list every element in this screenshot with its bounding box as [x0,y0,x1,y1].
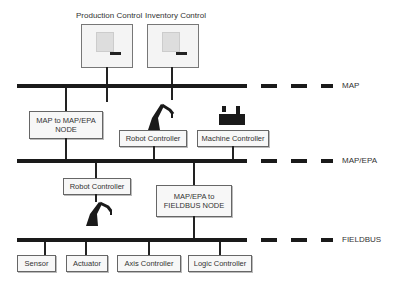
robot-controller-map: Robot Controller [119,130,187,147]
robot-controller-map-epa: Robot Controller [63,178,131,195]
gateway-line2: FIELDBUS NODE [164,201,224,210]
map-epa-bus-dash [261,159,277,163]
connector-line [193,216,195,238]
connector-line [106,67,108,84]
connector-line [44,242,46,255]
inventory-control-terminal [147,24,199,68]
fieldbus-bus [17,238,247,242]
map-epa-network-label: MAP/EPA [342,156,377,165]
map-epa-bus-dash [291,159,307,163]
connector-line [106,88,108,102]
terminal-drive-icon [110,52,121,55]
connector-line [65,138,67,159]
actuator-device: Actuator [66,255,108,272]
terminal-drive-icon [176,52,187,55]
map-epa-bus-dash [321,159,333,163]
robot-arm-icon [84,198,116,228]
robot-arm-icon [144,100,178,132]
fieldbus-bus-dash [291,238,307,242]
terminal-screen-icon [96,32,114,52]
map-to-map-epa-node: MAP to MAP/EPA NODE [29,111,103,139]
sensor-device: Sensor [17,255,56,272]
axis-controller-device: Axis Controller [117,255,181,272]
connector-line [232,146,234,159]
map-bus [17,84,247,88]
connector-line [171,67,173,84]
gateway-line1: MAP/EPA to [174,192,215,201]
terminal-screen-icon [162,32,180,52]
map-network-label: MAP [342,81,359,90]
connector-line [171,88,173,100]
production-control-label: Production Control [76,11,142,20]
map-epa-bus [17,159,247,163]
gateway-line1: MAP to MAP/EPA [36,116,95,125]
production-control-terminal [81,24,133,68]
inventory-control-label: Inventory Control [145,11,206,20]
connector-line [193,163,195,185]
machine-controller: Machine Controller [197,130,269,147]
connector-line [219,242,221,255]
connector-line [65,88,67,111]
fieldbus-network-label: FIELDBUS [342,235,381,244]
fieldbus-bus-dash [321,238,333,242]
connector-line [85,242,87,255]
map-bus-dash [321,84,333,88]
map-bus-dash [261,84,277,88]
connector-line [148,242,150,255]
machine-icon [219,106,245,126]
map-epa-to-fieldbus-node: MAP/EPA to FIELDBUS NODE [156,185,232,217]
map-bus-dash [291,84,307,88]
fieldbus-bus-dash [261,238,277,242]
connector-line [153,146,155,159]
gateway-line2: NODE [55,125,77,134]
connector-line [95,163,97,178]
logic-controller-device: Logic Controller [188,255,252,272]
